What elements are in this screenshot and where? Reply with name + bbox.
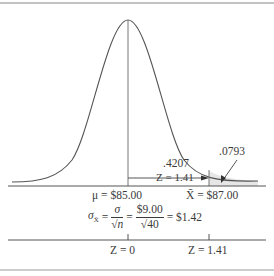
- bell-curve: [12, 20, 258, 182]
- z1-label: Z = 1.41: [188, 244, 227, 256]
- tail-pointer: [223, 160, 237, 180]
- std-error-formula: σX̄ = σ √n = $9.00 √40 = $1.42: [88, 204, 202, 230]
- sigma-xbar: σX̄: [88, 209, 99, 224]
- nine-over-root-forty: $9.00 √40: [136, 204, 164, 230]
- tail-area-label: .0793: [219, 145, 245, 157]
- left-area-label: .4207: [163, 157, 189, 169]
- z0-label: Z = 0: [110, 244, 135, 256]
- sigma-over-root-n: σ √n: [111, 204, 123, 230]
- xbar-label: X̄ = $87.00: [186, 189, 238, 201]
- left-z-label: Z = 1.41: [156, 171, 194, 183]
- mu-label: μ = $85.00: [92, 189, 142, 201]
- normal-curve-diagram: [0, 0, 274, 276]
